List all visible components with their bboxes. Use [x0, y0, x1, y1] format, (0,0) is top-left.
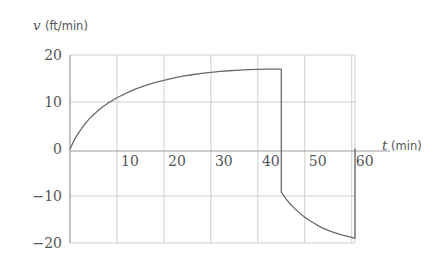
x-tick-label: 20	[168, 153, 186, 169]
y-tick-label: −10	[32, 188, 62, 204]
y-tick-label: 20	[44, 47, 62, 63]
y-tick-label: −20	[32, 235, 62, 251]
y-tick-label: 0	[53, 141, 62, 157]
x-axis-unit: (min)	[391, 139, 422, 153]
velocity-time-chart: 20100−10−20 102030405060 v (ft/min) t (m…	[0, 0, 443, 276]
x-tick-label: 50	[309, 153, 327, 169]
y-axis-unit: (ft/min)	[45, 19, 88, 33]
y-tick-label: 10	[44, 94, 62, 110]
x-tick-label: 60	[356, 153, 374, 169]
y-axis-variable: v	[33, 17, 41, 33]
x-tick-label: 10	[121, 153, 139, 169]
chart-background	[0, 0, 443, 276]
x-tick-label: 40	[262, 153, 280, 169]
x-tick-label: 30	[215, 153, 233, 169]
x-axis-variable: t	[382, 137, 388, 153]
